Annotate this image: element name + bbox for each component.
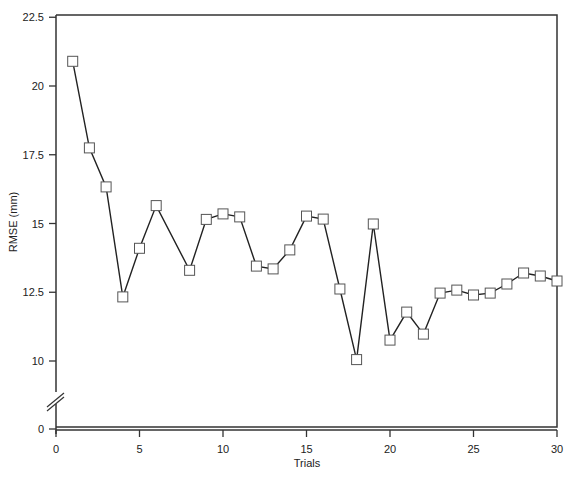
data-point-marker [519,268,529,278]
y-axis-title: RMSE (mm) [7,192,19,253]
data-point-marker [251,261,261,271]
series-line [73,61,557,359]
y-tick-label: 15 [32,218,44,230]
data-point-marker [151,201,161,211]
data-point-marker [268,264,278,274]
x-axis-title: Trials [294,457,321,469]
x-tick-label: 25 [467,443,479,455]
data-point-marker [185,265,195,275]
data-point-marker [368,219,378,229]
x-tick-label: 5 [136,443,142,455]
y-tick-label: 20 [32,80,44,92]
data-point-marker [469,290,479,300]
y-tick-label: 12.5 [23,286,44,298]
y-tick-label: 0 [38,423,44,435]
data-point-marker [302,211,312,221]
data-point-marker [235,212,245,222]
data-point-marker [402,307,412,317]
y-tick-label: 22.5 [23,11,44,23]
data-point-marker [335,284,345,294]
data-point-marker [68,56,78,66]
data-point-marker [118,292,128,302]
data-point-marker [552,276,562,286]
data-point-marker [418,329,428,339]
data-point-marker [435,288,445,298]
data-point-marker [502,279,512,289]
y-axis: 01012.51517.52022.5 [23,11,56,435]
data-point-marker [535,271,545,281]
y-tick-label: 17.5 [23,149,44,161]
data-point-marker [135,243,145,253]
data-point-marker [385,335,395,345]
rmse-line-chart: 01012.51517.52022.5 051015202530 Trials … [0,0,574,477]
data-point-marker [218,209,228,219]
x-tick-label: 0 [53,443,59,455]
x-tick-label: 30 [551,443,563,455]
data-point-marker [84,143,94,153]
data-point-marker [352,355,362,365]
data-point-marker [201,214,211,224]
x-tick-label: 10 [217,443,229,455]
data-point-marker [452,285,462,295]
data-series [68,56,562,364]
x-axis: 051015202530 [53,430,563,455]
x-tick-label: 20 [384,443,396,455]
data-point-marker [485,288,495,298]
data-point-marker [285,245,295,255]
x-tick-label: 15 [300,443,312,455]
plot-frame [56,15,557,434]
data-point-marker [318,214,328,224]
data-point-marker [101,182,111,192]
y-tick-label: 10 [32,355,44,367]
